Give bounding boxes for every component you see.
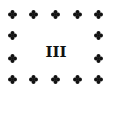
quatrefoil-clover-icon bbox=[94, 54, 103, 63]
quatrefoil-clover-icon bbox=[29, 10, 38, 19]
quatrefoil-clover-icon bbox=[94, 10, 103, 19]
quatrefoil-clover-icon bbox=[73, 75, 82, 84]
quatrefoil-clover-icon bbox=[8, 10, 17, 19]
quatrefoil-clover-icon bbox=[73, 10, 82, 19]
quatrefoil-clover-icon bbox=[94, 75, 103, 84]
quatrefoil-clover-icon bbox=[29, 75, 38, 84]
quatrefoil-clover-icon bbox=[8, 54, 17, 63]
roman-numeral: III bbox=[42, 43, 70, 61]
quatrefoil-clover-icon bbox=[8, 75, 17, 84]
quatrefoil-clover-icon bbox=[8, 31, 17, 40]
quatrefoil-clover-icon bbox=[51, 75, 60, 84]
quatrefoil-clover-icon bbox=[94, 31, 103, 40]
quatrefoil-clover-icon bbox=[51, 10, 60, 19]
